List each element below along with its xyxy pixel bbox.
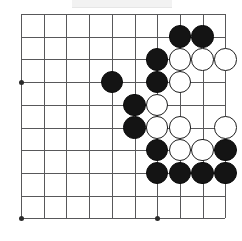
grid-line-horizontal [21,14,225,15]
black-stone [169,162,192,185]
star-point [19,80,24,85]
grid-line-vertical [21,14,22,218]
black-stone [191,162,214,185]
black-stone [101,71,124,94]
black-stone [146,139,169,162]
grid-line-vertical [112,14,113,218]
grid-line-vertical [44,14,45,218]
white-stone [191,48,214,71]
black-stone [123,94,146,117]
grid-line-horizontal [21,218,225,219]
white-stone [146,94,169,117]
white-stone [169,71,192,94]
white-stone [214,116,237,139]
star-point [19,216,24,221]
white-stone [146,116,169,139]
grid-line-horizontal [21,196,225,197]
star-point [155,216,160,221]
grid-line-horizontal [21,82,225,83]
black-stone [146,71,169,94]
go-board-diagram [0,0,242,241]
grid-line-vertical [66,14,67,218]
white-stone [214,48,237,71]
black-stone [123,116,146,139]
white-stone [169,139,192,162]
black-stone [214,139,237,162]
black-stone [146,162,169,185]
black-stone [146,48,169,71]
white-stone [169,48,192,71]
grid-line-vertical [89,14,90,218]
black-stone [169,25,192,48]
black-stone [191,25,214,48]
goban-grid [0,0,242,241]
black-stone [214,162,237,185]
white-stone [191,139,214,162]
white-stone [169,116,192,139]
